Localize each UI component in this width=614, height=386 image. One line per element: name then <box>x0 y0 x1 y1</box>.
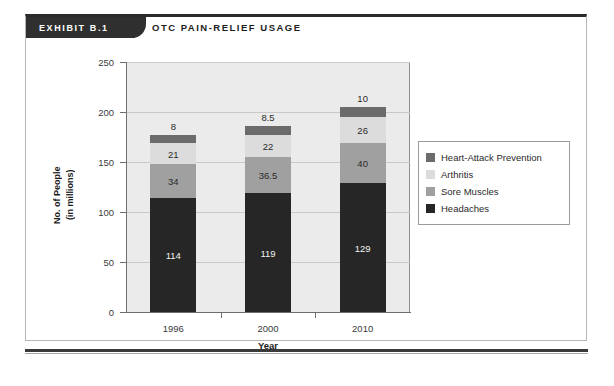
exhibit-bottom-rule-shadow <box>25 353 588 354</box>
x-axis-line <box>126 312 411 313</box>
y-axis-tick-mark <box>120 312 126 313</box>
x-axis-tick-label: 2010 <box>333 323 393 334</box>
bar-segment-value-label: 36.5 <box>245 169 291 180</box>
y-axis-tick-mark <box>120 112 126 113</box>
bar-segment-value-label: 40 <box>340 158 386 169</box>
y-axis-tick-mark <box>120 162 126 163</box>
legend-item[interactable]: Sore Muscles <box>426 183 561 200</box>
y-axis-tick-labels: 050100150200250 <box>82 62 114 312</box>
x-axis-tick-mark <box>221 312 222 318</box>
y-axis-tick-label: 200 <box>84 107 114 118</box>
bar-segment-value-label: 22 <box>245 140 291 151</box>
bar-stack-1996[interactable]: 82134114 <box>150 135 196 312</box>
legend-item-label: Arthritis <box>441 169 473 180</box>
legend-item-label: Sore Muscles <box>441 186 499 197</box>
bar-segment[interactable]: 21 <box>150 143 196 164</box>
bar-segment-value-label: 34 <box>150 176 196 187</box>
y-axis-tick-mark <box>120 62 126 63</box>
bar-segment[interactable]: 26 <box>340 117 386 143</box>
bar-segment[interactable]: 8.5 <box>245 126 291 135</box>
bar-stack-2000[interactable]: 8.52236.5119 <box>245 126 291 312</box>
bar-segment[interactable]: 129 <box>340 183 386 312</box>
bar-segment-value-label: 119 <box>245 247 291 258</box>
y-axis-tick-label: 250 <box>84 57 114 68</box>
legend-item-label: Heart-Attack Prevention <box>441 152 542 163</box>
y-axis-title-line-2: (in millions) <box>65 140 75 250</box>
bar-segment[interactable]: 22 <box>245 135 291 157</box>
x-axis-tick-label: 2000 <box>238 323 298 334</box>
y-axis-tick-label: 150 <box>84 157 114 168</box>
legend-item[interactable]: Heart-Attack Prevention <box>426 149 561 166</box>
bar-segment[interactable]: 10 <box>340 107 386 117</box>
bar-segment-value-label: 26 <box>340 125 386 136</box>
bar-segment[interactable]: 34 <box>150 164 196 198</box>
y-axis-tick-label: 50 <box>84 257 114 268</box>
y-axis-tick-label: 100 <box>84 207 114 218</box>
legend-item[interactable]: Headaches <box>426 200 561 217</box>
bar-segment[interactable]: 36.5 <box>245 157 291 194</box>
bar-segment[interactable]: 114 <box>150 198 196 312</box>
bar-segment-value-label: 21 <box>150 148 196 159</box>
x-axis-title: Year <box>126 340 410 351</box>
y-axis-title: No. of People (in millions) <box>52 140 86 250</box>
bar-segment[interactable]: 8 <box>150 135 196 143</box>
legend-item-label: Headaches <box>441 203 489 214</box>
legend-swatch-icon <box>426 170 435 179</box>
x-axis-tick-label: 1996 <box>143 323 203 334</box>
exhibit-tab: EXHIBIT B.1 <box>26 17 135 38</box>
x-axis-tick-mark <box>315 312 316 318</box>
exhibit-tab-label: EXHIBIT B.1 <box>39 23 109 33</box>
y-axis-line <box>126 62 127 313</box>
y-axis-tick-label: 0 <box>84 307 114 318</box>
bar-segment-value-label: 129 <box>340 242 386 253</box>
legend-swatch-icon <box>426 153 435 162</box>
bar-segment-value-label: 114 <box>150 250 196 261</box>
bar-segment-value-label: 8 <box>150 121 196 132</box>
gridline <box>126 62 410 63</box>
y-axis-tick-mark <box>120 212 126 213</box>
y-axis-tick-mark <box>120 262 126 263</box>
plot-area: 821341148.52236.5119102640129 <box>126 62 410 312</box>
plot-right-border <box>409 62 410 312</box>
bar-segment[interactable]: 119 <box>245 193 291 312</box>
bar-segment-value-label: 10 <box>340 93 386 104</box>
bar-segment[interactable]: 40 <box>340 143 386 183</box>
bar-segment-value-label: 8.5 <box>245 112 291 123</box>
legend-swatch-icon <box>426 204 435 213</box>
legend-swatch-icon <box>426 187 435 196</box>
y-axis-title-line-1: No. of People <box>52 140 62 250</box>
exhibit-title: OTC PAIN-RELIEF USAGE <box>152 22 302 33</box>
chart-legend: Heart-Attack PreventionArthritisSore Mus… <box>418 141 570 225</box>
bar-stack-2010[interactable]: 102640129 <box>340 107 386 312</box>
legend-item[interactable]: Arthritis <box>426 166 561 183</box>
